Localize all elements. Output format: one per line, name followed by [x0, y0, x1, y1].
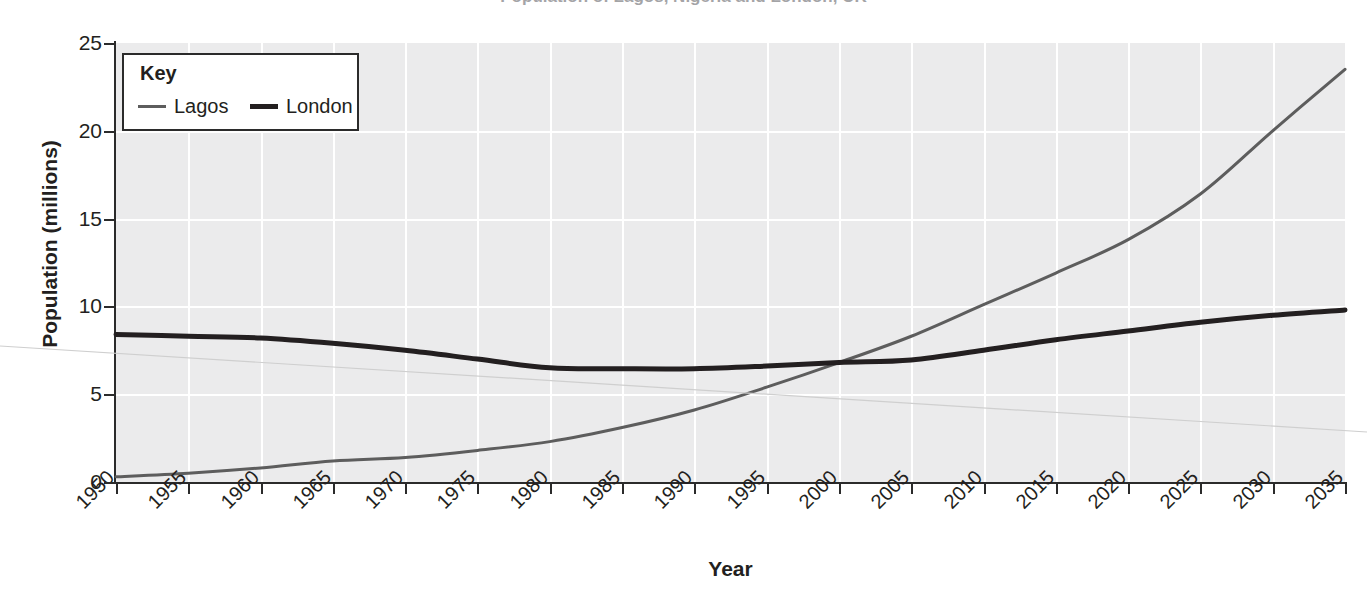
x-axis-tick: [767, 483, 769, 494]
x-axis-tick: [1345, 483, 1347, 494]
y-axis-tick: [104, 482, 115, 484]
y-axis-tick-label: 20: [16, 120, 102, 141]
y-axis-tick-label: 10: [16, 295, 102, 316]
x-axis-tick: [405, 483, 407, 494]
y-axis-tick: [104, 394, 115, 396]
chart-legend: Key LagosLondon: [122, 53, 359, 131]
x-axis-tick: [333, 483, 335, 494]
x-axis-tick: [188, 483, 190, 494]
x-axis-tick: [622, 483, 624, 494]
x-axis-tick: [1273, 483, 1275, 494]
legend-entry-lagos: Lagos: [138, 95, 229, 118]
y-axis-tick: [104, 131, 115, 133]
x-axis-tick: [1200, 483, 1202, 494]
x-axis-tick: [477, 483, 479, 494]
x-axis-tick: [1056, 483, 1058, 494]
x-axis-tick: [984, 483, 986, 494]
y-axis-tick: [104, 43, 115, 45]
x-axis-tick: [694, 483, 696, 494]
y-axis-tick-label: 0: [16, 471, 102, 492]
x-axis-title: Year: [116, 557, 1345, 581]
y-axis-tick-label: 15: [16, 208, 102, 229]
y-axis-tick: [104, 219, 115, 221]
gridline-vertical: [1345, 43, 1347, 482]
x-axis-tick: [839, 483, 841, 494]
y-axis-tick-label: 5: [16, 383, 102, 404]
x-axis-tick: [550, 483, 552, 494]
x-axis-tick: [261, 483, 263, 494]
legend-label-london: London: [286, 95, 353, 118]
x-axis-line: [114, 482, 1347, 484]
legend-label-lagos: Lagos: [174, 95, 229, 118]
legend-title: Key: [140, 62, 177, 85]
x-axis-tick: [1128, 483, 1130, 494]
y-axis-tick: [104, 306, 115, 308]
x-axis-tick: [911, 483, 913, 494]
legend-line-swatch-london: [250, 104, 278, 109]
series-line-london: [116, 310, 1345, 369]
legend-line-swatch-lagos: [138, 105, 166, 108]
legend-entry-london: London: [250, 95, 353, 118]
line-chart: Population (millions) Year Key LagosLond…: [0, 0, 1367, 611]
x-axis-tick: [116, 483, 118, 494]
y-axis-tick-label: 25: [16, 32, 102, 53]
